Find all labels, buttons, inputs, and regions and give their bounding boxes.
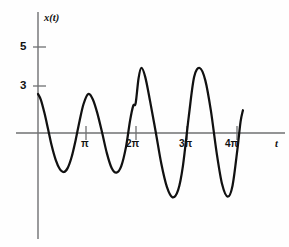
x-tick-label-2pi: 2π [126, 139, 139, 149]
x-tick-label-pi: π [81, 139, 89, 149]
y-axis-label: x(t) [44, 13, 59, 24]
plot-canvas [0, 0, 289, 247]
y-tick-label-3: 3 [20, 80, 26, 92]
x-tick-label-4pi: 4π [225, 139, 238, 149]
y-tick-label-5: 5 [20, 41, 26, 53]
x-tick-label-3pi: 3π [179, 139, 192, 149]
figure-container: 5 3 π 2π 3π 4π x(t) t [0, 0, 289, 247]
x-axis-label: t [275, 139, 278, 150]
